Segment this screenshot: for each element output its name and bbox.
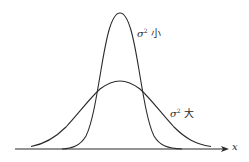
sigma-symbol: σ (137, 28, 144, 39)
small-variance-label: σ2 小 (137, 28, 161, 39)
small-label-text: 小 (151, 28, 161, 39)
exponent: 2 (144, 27, 148, 34)
exponent: 2 (177, 107, 181, 114)
normal-distribution-diagram: σ2 小 σ2 大 x (0, 0, 249, 162)
diagram-canvas (0, 0, 249, 162)
large-variance-label: σ2 大 (170, 108, 194, 119)
x-axis-label: x (232, 142, 238, 152)
sigma-symbol: σ (170, 108, 177, 119)
large-label-text: 大 (184, 108, 194, 119)
